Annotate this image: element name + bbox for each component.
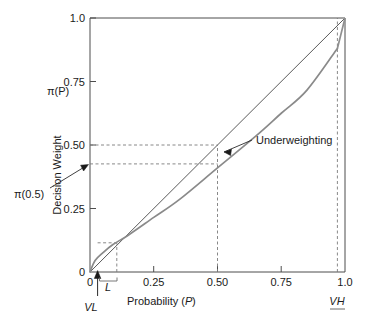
x-axis-title-text: Probability ( <box>127 295 185 307</box>
underweighting-label: Underweighting <box>256 134 332 146</box>
y-tick-labels: 1.0 0.75 0.50 0.25 0 <box>64 12 85 278</box>
low-label: L <box>105 281 111 293</box>
very-high-annotation: VH <box>329 295 345 309</box>
decision-weight-curve <box>90 48 337 272</box>
y-axis-ticks <box>90 18 96 209</box>
vh-jump-segment <box>337 18 345 49</box>
x-tick-labels: 0 0.25 0.50 0.75 1.0 <box>87 276 353 288</box>
decision-weight-chart: Underweighting π(0.5) VL L VH 1.0 0.75 <box>0 0 369 327</box>
y-tick-label-050: 0.50 <box>64 139 85 151</box>
x-tick-label-075: 0.75 <box>270 276 291 288</box>
x-tick-label-100: 1.0 <box>337 276 352 288</box>
y-tick-label-000: 0 <box>79 266 85 278</box>
pi-half-arrowhead <box>81 165 89 172</box>
y-tick-label-100: 1.0 <box>70 12 85 24</box>
chart-svg: Underweighting π(0.5) VL L VH 1.0 0.75 <box>0 0 369 327</box>
y-axis-symbol-label: π(P) <box>47 85 69 97</box>
x-tick-label-050: 0.50 <box>207 276 228 288</box>
very-high-label: VH <box>329 295 344 307</box>
y-tick-label-025: 0.25 <box>64 203 85 215</box>
y-axis-title: Decision Weight <box>51 135 63 214</box>
x-tick-label-025: 0.25 <box>143 276 164 288</box>
underweighting-annotation: Underweighting <box>224 134 332 156</box>
x-axis-title-close: ) <box>192 295 196 307</box>
pi-half-label: π(0.5) <box>14 188 44 200</box>
x-axis-title: Probability ( P ) <box>127 295 196 307</box>
very-low-label: VL <box>84 301 97 313</box>
x-tick-label-000: 0 <box>87 276 93 288</box>
